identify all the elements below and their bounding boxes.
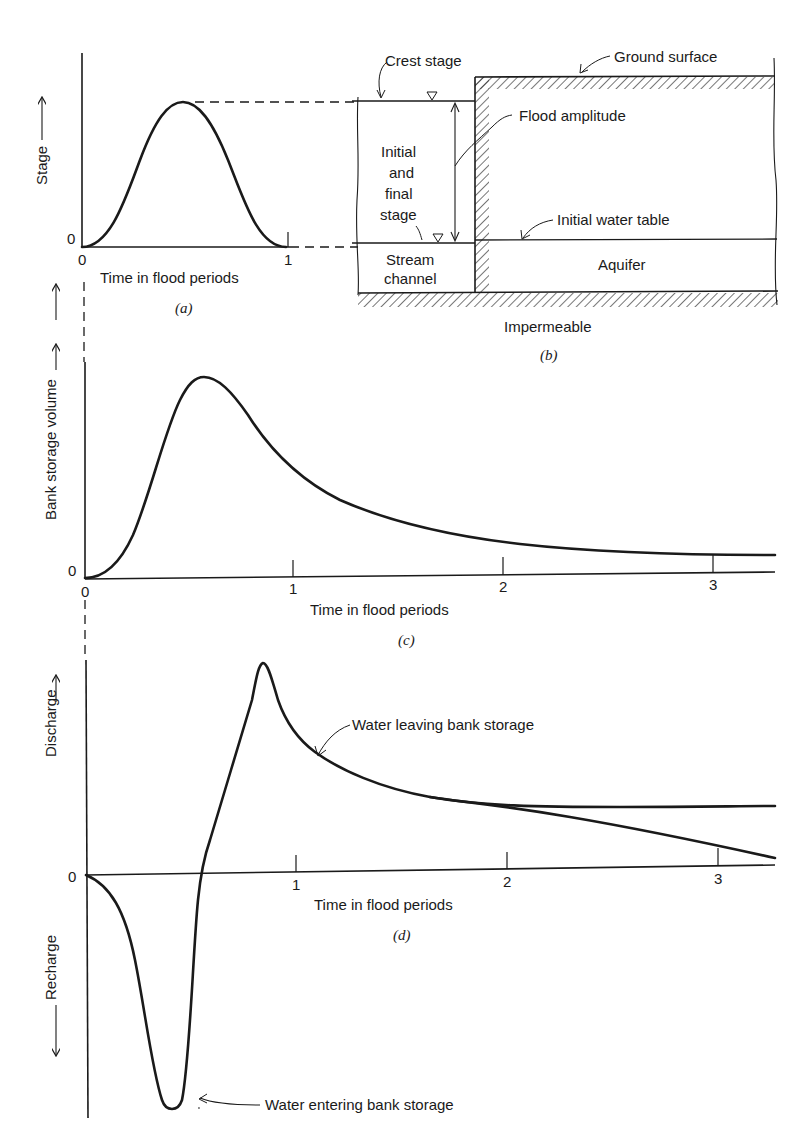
bank-wall-hatch [475,77,489,293]
crest-water-level-icon [427,92,437,100]
ground-surface-leader [582,56,610,72]
panel-c-xtick-3: 3 [709,576,717,593]
label-ground-surface: Ground surface [614,48,717,65]
panel-c-xtick-0: 0 [81,583,89,600]
panel-d-caption: (d) [393,927,411,944]
panel-d-discharge-chart: Water leaving bank storage Water enterin… [42,600,775,1118]
label-final: final [385,185,413,202]
impermeable-line [358,291,778,293]
panel-c-bank-storage-chart: Bank storage volume 0 0 1 2 3 Time in fl… [42,282,775,649]
panel-a-stage-chart: Stage 0 0 1 Time in flood periods (a) [33,53,358,317]
panel-a-caption: (a) [175,300,193,317]
panel-d-zero-line [86,865,775,875]
label-stage: stage [380,206,417,223]
panel-c-x-axis [85,572,775,579]
panel-a-ylabel: Stage [33,146,50,185]
aquifer-right-edge [774,58,777,305]
initial-water-level-icon [433,234,443,242]
label-aquifer: Aquifer [598,256,646,273]
initial-stage-leader [416,226,422,240]
panel-a-y-zero: 0 [67,230,75,247]
water-table-line [475,239,777,240]
panel-a-xtick-0: 0 [78,251,86,268]
panel-c-xlabel: Time in flood periods [310,601,449,618]
label-water-leaving: Water leaving bank storage [352,716,534,733]
panel-d-y-axis [86,660,88,1118]
panel-d-discharge-tail [430,797,775,807]
panel-b-cross-section-diagram: Crest stage Ground surface Flood amplitu… [352,48,778,364]
label-crest-stage: Crest stage [385,52,462,69]
panel-c-xtick-2: 2 [499,578,507,595]
panel-b-caption: (b) [540,347,558,364]
panel-c-ylabel: Bank storage volume [42,379,59,520]
panel-d-xtick-1: 1 [292,876,300,893]
label-initial-water-table: Initial water table [557,211,670,228]
panel-c-xtick-1: 1 [289,580,297,597]
panel-a-xtick-1: 1 [284,251,292,268]
label-water-entering: Water entering bank storage [265,1096,454,1113]
panel-d-xtick-2: 2 [503,873,511,890]
label-initial: Initial [381,143,416,160]
panel-c-storage-curve [85,377,775,578]
label-impermeable: Impermeable [504,318,592,335]
panel-a-xlabel: Time in flood periods [100,269,239,286]
panel-d-xtick-3: 3 [714,870,722,887]
panel-d-ylabel-recharge: Recharge [42,935,59,1000]
panel-d-xlabel: Time in flood periods [314,896,453,913]
leaving-leader [318,725,350,755]
entering-leader [200,1098,260,1105]
panel-c-y-zero: 0 [68,562,76,579]
water-table-leader [523,220,553,238]
ground-surface-hatch [475,77,775,89]
label-channel: channel [384,270,437,287]
panel-a-stage-curve [82,102,286,247]
figure-canvas: Stage 0 0 1 Time in flood periods (a) [0,0,808,1148]
label-flood-amplitude: Flood amplitude [519,107,626,124]
ground-surface-arrowhead-icon [580,64,588,73]
impermeable-hatch [358,293,778,307]
panel-c-caption: (c) [398,632,415,649]
label-and: and [389,164,414,181]
stream-left-edge [357,97,359,295]
panel-d-y-zero: 0 [68,868,76,885]
label-stream: Stream [386,251,434,268]
entering-arrowhead-icon [199,1094,207,1103]
ground-surface-line [475,76,775,77]
